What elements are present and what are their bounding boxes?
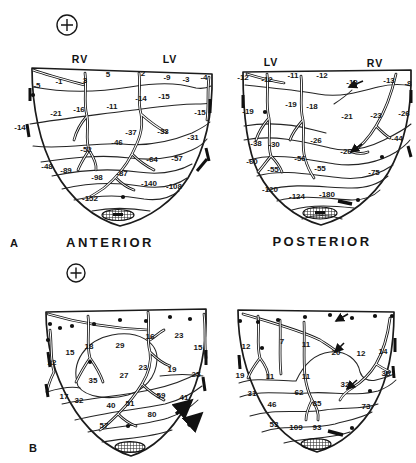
electrode-dot [356,198,360,202]
isochrone-value: -38 [250,139,262,148]
isochrone-value: -56 [294,154,306,163]
electrode-dot [88,360,92,364]
map-a-anterior: 52-9-3-4-13-5-21-16-11-14-15-15-14-37-33… [14,53,212,226]
isochrone-value: 46 [268,400,277,409]
isochrone-value: 29 [116,341,125,350]
isochrone-value: -48 [41,162,53,171]
isochrone-value: 14 [379,347,388,356]
isochrone-value: 93 [313,423,322,432]
electrode-dot [368,389,372,393]
isochrone-value: -30 [268,140,280,149]
figure-canvas: 52-9-3-4-13-5-21-16-11-14-15-15-14-37-33… [0,0,416,463]
isochrone-value: -46 [111,138,123,147]
electrode-dot [260,346,264,350]
isochrone-value: -120 [262,185,279,194]
isochrone-value: -1 [55,77,63,86]
isochrone-value: 15 [194,343,203,352]
electrode-dot [126,424,130,428]
isochrone-value: -15 [194,108,206,117]
isochrone-value: -57 [171,154,183,163]
isochrone-value: 22 [48,358,57,367]
isochrone-value: 15 [66,348,75,357]
ventricle-label-lv: LV [163,53,178,65]
electrode-dot [168,315,172,319]
isochrone-value: 5 [106,70,111,79]
isochrone-value: 19 [168,365,177,374]
isochrone-value: -33 [157,127,169,136]
isochrone-value: 12 [242,342,251,351]
isochrone-value: -87 [116,169,128,178]
electrode-dot [188,317,192,321]
isochrone-value: -152 [82,194,99,203]
isochrone-value: -60 [246,157,258,166]
annotation-arrow [188,414,201,426]
electrode-dot [48,322,52,326]
isochrone-value: -12 [237,73,249,82]
isochrone-value: -18 [306,102,318,111]
isochrone-value: -14 [14,123,26,132]
isochrone-value: -180 [319,190,336,199]
isochrone-value: 7 [280,337,285,346]
isochrone-value: 20 [332,348,341,357]
electrode-dot [92,322,96,326]
isochrone-value: 11 [302,340,311,349]
isochrone-value: -3 [182,75,190,84]
isochrone-value: -21 [341,112,353,121]
isochrone-value: -26 [340,147,352,156]
isochrone-value: 40 [107,401,116,410]
isochrone-value: -140 [141,179,158,188]
isochrone-value: -31 [187,133,199,142]
annotation-arrow [336,314,348,321]
electrode-dot [46,338,50,342]
anterior-title: ANTERIOR [66,235,154,250]
isochrone-value: -98 [91,173,103,182]
electrode-dot [144,319,148,323]
electrode-dot [118,318,122,322]
isochrone-value: 62 [295,388,304,397]
electrode-dot [380,155,384,159]
map-a-posterior: -12-12-11-12-12-13-8-19-19-18-21-23-26-3… [237,56,412,225]
isochrone-value: -11 [106,102,118,111]
isochrone-value: 23 [139,363,148,372]
ventricle-label-rv: RV [367,57,383,69]
isochrone-value: 12 [357,349,366,358]
electrode-dot [276,318,280,322]
electrode-dot [238,319,242,323]
isochrone-value: -11 [287,71,299,80]
isochrone-value: -55 [314,164,326,173]
electrode-dot [390,314,394,318]
isochrone-value: 31 [248,389,257,398]
isochrone-value: 2 [141,69,146,78]
electrode-dot [58,326,62,330]
isochrone-value: 11 [266,372,275,381]
isochrone-value: 59 [157,391,166,400]
isochrone-value: 85 [313,399,322,408]
isochrone-value: 41 [180,393,189,402]
orientation-marker-a [57,15,77,35]
isochrone-value: -19 [242,107,254,116]
isochrone-value: 53 [270,420,279,429]
isochrone-value: 25 [192,370,201,379]
electrode-dot [350,316,354,320]
posterior-title: POSTERIOR [272,234,371,249]
isochrone-value: 73 [362,402,371,411]
isochrone-value: 38 [382,369,391,378]
electrode-dot [121,195,125,199]
isochrone-value: 80 [148,410,157,419]
annotation-dash [328,431,343,435]
isochrone-value: 18 [85,342,94,351]
isochrone-value: 35 [89,376,98,385]
electrode-dot [31,93,35,97]
isochrone-value: 19 [236,371,245,380]
isochrone-value: 27 [120,371,129,380]
figure-epicardial-isochrone-maps: 52-9-3-4-13-5-21-16-11-14-15-15-14-37-33… [0,0,416,463]
isochrone-value: -14 [135,94,147,103]
electrode-dot [373,314,377,318]
map-b-posterior: 12711201214191111383231624685735310993 [236,310,396,452]
isochrone-value: 17 [60,392,69,401]
isochrone-value: 3 [83,76,88,85]
isochrone-value: 32 [341,380,350,389]
isochrone-value: -75 [368,168,380,177]
isochrone-value: -23 [370,111,382,120]
electrode-dot [256,320,260,324]
